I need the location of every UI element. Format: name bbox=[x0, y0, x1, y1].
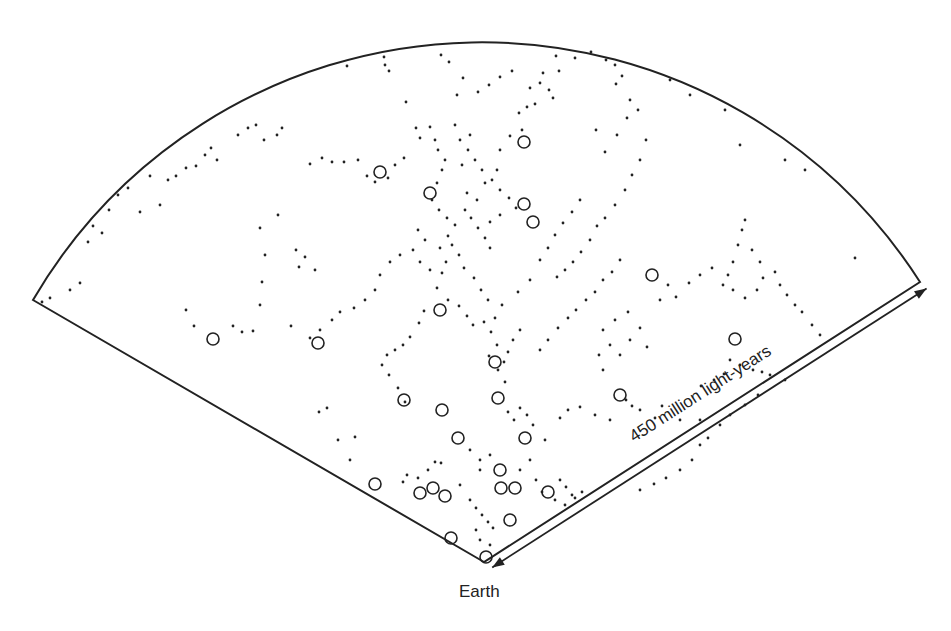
galaxy-dot bbox=[629, 339, 632, 342]
galaxy-dot bbox=[404, 401, 407, 404]
galaxy-dot bbox=[281, 127, 284, 130]
distance-arrow bbox=[492, 288, 926, 567]
galaxy-dot bbox=[499, 149, 502, 152]
galaxy-dot bbox=[417, 229, 420, 232]
galaxy-dot bbox=[507, 411, 510, 414]
galaxy-dot bbox=[784, 159, 787, 162]
galaxy-dot bbox=[458, 254, 461, 257]
galaxy-dot bbox=[277, 214, 280, 217]
galaxy-dot bbox=[801, 311, 804, 314]
galaxy-dot bbox=[470, 217, 473, 220]
cluster-circle bbox=[398, 394, 410, 406]
galaxy-dot bbox=[719, 424, 722, 427]
galaxy-dot bbox=[532, 424, 535, 427]
galaxy-dot bbox=[779, 284, 782, 287]
galaxy-dot bbox=[388, 374, 391, 377]
galaxy-dot bbox=[326, 407, 329, 410]
galaxy-dot bbox=[699, 444, 702, 447]
galaxy-dot bbox=[602, 279, 605, 282]
cluster-circle bbox=[542, 486, 554, 498]
galaxy-dot bbox=[581, 491, 584, 494]
galaxy-dot bbox=[321, 157, 324, 160]
galaxy-dot bbox=[653, 483, 656, 486]
galaxy-dot bbox=[605, 59, 608, 62]
galaxy-dot bbox=[629, 99, 632, 102]
galaxy-dot bbox=[761, 371, 764, 374]
galaxy-dot bbox=[469, 499, 472, 502]
cluster-circle bbox=[207, 333, 219, 345]
galaxy-dot bbox=[567, 317, 570, 320]
galaxy-dot bbox=[108, 209, 111, 212]
galaxy-dot bbox=[487, 521, 490, 524]
wedge-outline bbox=[33, 42, 920, 562]
galaxy-dot bbox=[552, 97, 555, 100]
galaxy-dot bbox=[665, 477, 668, 480]
galaxy-dot bbox=[567, 409, 570, 412]
galaxy-dot bbox=[384, 64, 387, 67]
galaxy-dot bbox=[529, 459, 532, 462]
galaxy-dot bbox=[572, 261, 575, 264]
galaxy-dot bbox=[463, 267, 466, 270]
galaxy-dot bbox=[456, 94, 459, 97]
galaxy-dot bbox=[298, 266, 301, 269]
cluster-circle bbox=[434, 304, 446, 316]
galaxy-dot bbox=[732, 289, 735, 292]
galaxy-dot bbox=[774, 271, 777, 274]
galaxy-dot bbox=[427, 469, 430, 472]
galaxy-dot bbox=[614, 204, 617, 207]
galaxy-dot bbox=[346, 65, 349, 68]
galaxy-dot bbox=[69, 289, 72, 292]
galaxy-dot bbox=[594, 414, 597, 417]
galaxy-dot bbox=[722, 284, 725, 287]
galaxy-dot bbox=[364, 299, 367, 302]
galaxy-dot bbox=[556, 276, 559, 279]
cluster-circle bbox=[519, 432, 531, 444]
galaxy-dot bbox=[484, 237, 487, 240]
cluster-circle bbox=[509, 482, 521, 494]
galaxy-dot bbox=[727, 274, 730, 277]
galaxy-dot bbox=[175, 175, 178, 178]
galaxy-dot bbox=[667, 284, 670, 287]
galaxy-dot bbox=[596, 225, 599, 228]
galaxy-dot bbox=[252, 330, 255, 333]
galaxy-dot bbox=[519, 469, 522, 472]
galaxy-dot bbox=[579, 406, 582, 409]
galaxy-dot bbox=[437, 149, 440, 152]
galaxy-dot bbox=[564, 269, 567, 272]
galaxy-dot bbox=[535, 479, 538, 482]
galaxy-dot bbox=[259, 304, 262, 307]
galaxy-dot bbox=[469, 134, 472, 137]
galaxy-dot bbox=[309, 163, 312, 166]
galaxy-dot bbox=[101, 232, 104, 235]
galaxy-dot bbox=[314, 269, 317, 272]
galaxy-dot bbox=[185, 309, 188, 312]
galaxy-dot bbox=[534, 103, 537, 106]
galaxy-dot bbox=[466, 192, 469, 195]
galaxy-dot bbox=[786, 294, 789, 297]
cluster-circle bbox=[494, 464, 506, 476]
galaxy-dot bbox=[381, 364, 384, 367]
galaxy-dot bbox=[539, 82, 542, 85]
galaxy-dot bbox=[451, 244, 454, 247]
galaxy-dot bbox=[409, 336, 412, 339]
galaxy-dot bbox=[729, 359, 732, 362]
galaxy-dot bbox=[483, 321, 486, 324]
galaxy-dot bbox=[419, 137, 422, 140]
galaxy-dot bbox=[261, 281, 264, 284]
galaxy-dot bbox=[403, 157, 406, 160]
galaxy-dot bbox=[383, 56, 386, 59]
galaxy-dot bbox=[558, 70, 561, 73]
galaxy-dot bbox=[467, 149, 470, 152]
galaxy-dot bbox=[92, 225, 95, 228]
galaxy-dot bbox=[480, 289, 483, 292]
cluster-circle bbox=[414, 487, 426, 499]
galaxy-dot bbox=[499, 189, 502, 192]
galaxy-dot bbox=[637, 109, 640, 112]
galaxy-dot bbox=[526, 106, 529, 109]
galaxy-dot bbox=[609, 419, 612, 422]
galaxy-dot bbox=[434, 461, 437, 464]
galaxy-dot bbox=[544, 439, 547, 442]
galaxy-dot bbox=[557, 327, 560, 330]
galaxy-dot bbox=[756, 289, 759, 292]
galaxy-dot bbox=[441, 169, 444, 172]
